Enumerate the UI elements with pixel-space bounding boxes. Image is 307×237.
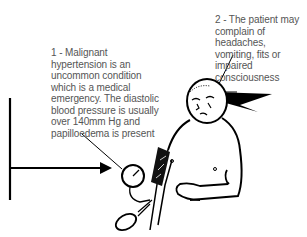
patient-body: [168, 118, 242, 200]
arrow-head-icon: [100, 162, 112, 174]
annotation-2: 2 - The patient may complain of headache…: [215, 14, 307, 83]
inflation-bulb-icon: [113, 210, 139, 233]
annotation-1: 1 - Malignant hypertension is an uncommo…: [51, 47, 161, 139]
gauge-tube: [130, 187, 150, 202]
blood-pressure-cuff: [151, 147, 170, 186]
patient-head: [187, 79, 227, 123]
